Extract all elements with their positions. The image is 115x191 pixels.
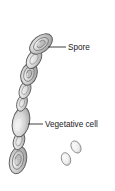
vegetative-cell-label: Vegetative cell [45,120,98,129]
spore-diagram-figure: Spore Vegetative cell [0,0,115,191]
spore-label: Spore [68,43,90,52]
